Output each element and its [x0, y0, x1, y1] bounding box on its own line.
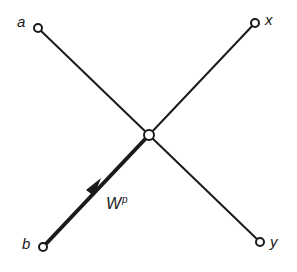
- label-y: y: [270, 234, 278, 249]
- label-a: a: [17, 14, 25, 29]
- edge-b-center-highlighted: [43, 135, 149, 247]
- node-y: [256, 238, 264, 246]
- label-b: b: [22, 236, 30, 251]
- weight-label: Wp: [106, 196, 128, 212]
- diagram-canvas: [0, 0, 297, 272]
- node-x: [251, 19, 259, 27]
- node-center: [144, 130, 154, 140]
- weight-label-base: W: [106, 195, 121, 212]
- edge-center-x: [149, 23, 255, 135]
- node-b: [39, 243, 47, 251]
- node-a: [34, 24, 42, 32]
- weight-label-superscript: p: [122, 194, 128, 205]
- label-x: x: [265, 12, 273, 27]
